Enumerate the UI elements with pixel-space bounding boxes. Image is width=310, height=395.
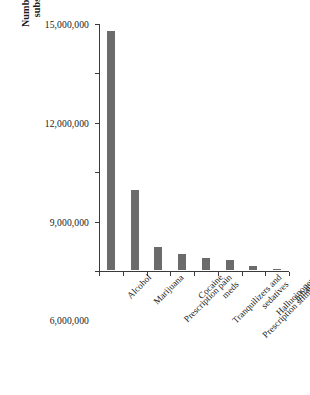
y-axis-line [99, 24, 100, 272]
plot-area: 03,000,0006,000,0009,000,00012,000,00015… [99, 24, 289, 271]
x-axis-labels: AlcoholMarijuanaPrescription painmedsCoc… [99, 273, 299, 383]
y-tick-label: 9,000,000 [50, 216, 89, 227]
y-tick-label: 6,000,000 [50, 315, 89, 326]
y-axis-title-line-1: Number of Americans with [20, 0, 31, 27]
bar [273, 269, 281, 270]
y-tick-mark: 12,000,000 [95, 73, 99, 74]
x-axis-label-line: Alcohol [126, 273, 154, 301]
y-tick-label: 15,000,000 [45, 19, 89, 30]
y-tick-label: 12,000,000 [45, 117, 89, 128]
bar [154, 247, 162, 270]
bar [178, 254, 186, 270]
y-tick-mark: 15,000,000 [95, 24, 99, 25]
y-tick-mark: 3,000,000 [95, 222, 99, 223]
bar [249, 266, 257, 270]
y-tick-mark: 9,000,000 [95, 123, 99, 124]
bar-chart-figure: Number of Americans with substance use d… [0, 0, 310, 395]
y-tick-mark: 6,000,000 [95, 172, 99, 173]
bar [107, 31, 115, 270]
bar [202, 258, 210, 270]
y-axis-title: Number of Americans with substance use d… [14, 0, 48, 76]
x-axis-label: Alcohol [126, 273, 154, 301]
x-axis-label: Marijuana [152, 273, 186, 307]
bar [226, 260, 234, 270]
y-axis-title-line-2: substance use disorder [31, 0, 42, 17]
x-axis-label-line: Marijuana [152, 273, 186, 307]
bar [131, 190, 139, 270]
